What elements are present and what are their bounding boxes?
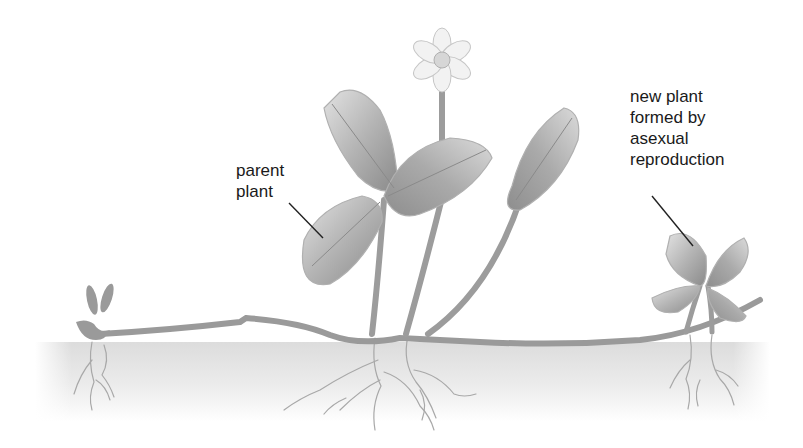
parent-plant-label: parent plant [236, 160, 284, 202]
strawberry-runner-diagram [0, 0, 803, 448]
leaf [302, 196, 382, 285]
leaf [384, 138, 492, 216]
flower [410, 28, 474, 92]
leaf [706, 238, 748, 287]
new-plant [652, 234, 748, 333]
leaf [666, 234, 706, 287]
leaf [324, 90, 398, 191]
new-plant-label: new plant formed by asexual reproduction [630, 86, 725, 170]
